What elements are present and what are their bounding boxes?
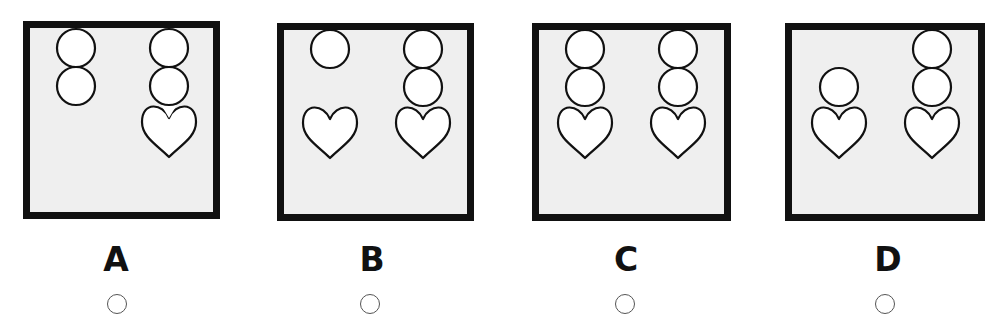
option-c-radio[interactable] <box>615 294 635 314</box>
circle-icon <box>150 29 188 67</box>
option-c-label: C <box>596 240 656 280</box>
heart-icon <box>396 107 450 158</box>
circle-icon <box>311 30 349 68</box>
heart-icon <box>812 107 866 158</box>
heart-icon <box>651 107 705 158</box>
circle-icon <box>820 68 858 106</box>
heart-icon <box>558 107 612 158</box>
option-d-radio[interactable] <box>875 294 895 314</box>
option-b-label: B <box>342 240 402 280</box>
option-a-figure <box>23 21 220 219</box>
circle-icon <box>57 67 95 105</box>
circle-icon <box>659 68 697 106</box>
circle-icon <box>566 30 604 68</box>
circle-icon <box>659 30 697 68</box>
circle-icon <box>57 29 95 67</box>
circle-icon <box>566 68 604 106</box>
circle-icon <box>913 30 951 68</box>
option-a-shapes <box>30 28 227 226</box>
option-c-shapes <box>539 30 738 228</box>
option-d-figure <box>785 23 985 221</box>
option-b-figure <box>277 23 474 221</box>
circle-icon <box>913 68 951 106</box>
heart-icon <box>303 107 357 158</box>
heart-icon <box>905 107 959 158</box>
option-d-shapes <box>792 30 992 228</box>
option-a-radio[interactable] <box>107 294 127 314</box>
option-b-shapes <box>284 30 481 228</box>
option-c-figure <box>532 23 731 221</box>
circle-icon <box>404 68 442 106</box>
option-b-radio[interactable] <box>360 294 380 314</box>
circle-icon <box>404 30 442 68</box>
option-a-label: A <box>86 240 146 280</box>
option-d-label: D <box>858 240 918 280</box>
